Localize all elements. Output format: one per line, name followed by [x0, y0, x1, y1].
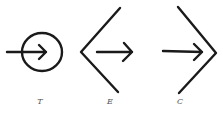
left-chevron-shape — [81, 8, 120, 92]
figure-e — [81, 8, 132, 92]
arrow-right-icon — [163, 44, 202, 60]
figure-t — [7, 33, 62, 71]
label-t: T — [30, 97, 50, 106]
arrow-right-icon — [7, 45, 46, 59]
label-e: E — [100, 97, 120, 106]
figure-c — [163, 7, 216, 93]
label-c: C — [170, 97, 190, 106]
right-chevron-shape — [178, 7, 216, 93]
arrow-right-icon — [97, 43, 132, 61]
